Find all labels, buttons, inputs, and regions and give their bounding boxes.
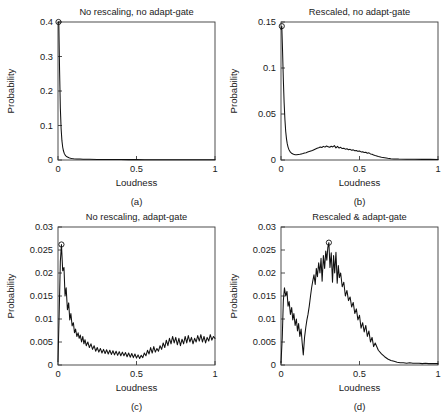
panel-caption: (c)	[131, 401, 142, 412]
x-tick-label: 0	[55, 164, 60, 174]
y-tick-label: 0.4	[40, 17, 53, 27]
x-axis-label: Loudness	[339, 177, 381, 188]
y-tick-label: 0.01	[258, 314, 276, 324]
y-tick-label: 0	[271, 360, 276, 370]
y-tick-label: 0.15	[258, 17, 276, 27]
y-tick-label: 0.3	[40, 52, 53, 62]
x-tick-label: 1	[212, 369, 217, 379]
y-axis-label: Probability	[228, 273, 239, 318]
y-tick-label: 0.015	[253, 291, 276, 301]
axes-frame	[58, 227, 215, 365]
panel-caption: (d)	[354, 401, 366, 412]
chart-title: No rescaling, no adapt-gate	[79, 7, 193, 17]
y-tick-label: 0	[271, 155, 276, 165]
axes-frame	[281, 22, 438, 160]
y-tick-label: 0	[48, 155, 53, 165]
x-tick-label: 0	[278, 164, 283, 174]
y-tick-label: 0.02	[35, 268, 53, 278]
x-axis-label: Loudness	[116, 177, 158, 188]
y-axis-label: Probability	[5, 68, 16, 113]
chart-title: Rescaled, no adapt-gate	[309, 7, 410, 17]
y-axis-label: Probability	[228, 68, 239, 113]
x-tick-label: 1	[435, 164, 440, 174]
x-axis-label: Loudness	[116, 382, 158, 393]
chart-panel-d: Rescaled & adapt-gate00.5100.0050.010.01…	[223, 205, 447, 413]
y-tick-label: 0.03	[258, 222, 276, 232]
x-tick-label: 0.5	[353, 164, 366, 174]
y-tick-label: 0.03	[35, 222, 53, 232]
y-axis-label: Probability	[5, 273, 16, 318]
x-tick-label: 1	[212, 164, 217, 174]
x-tick-label: 0.5	[353, 369, 366, 379]
x-tick-label: 1	[435, 369, 440, 379]
y-tick-label: 0.02	[258, 268, 276, 278]
y-tick-label: 0.025	[253, 245, 276, 255]
x-tick-label: 0.5	[130, 164, 143, 174]
data-curve	[281, 243, 438, 364]
y-tick-label: 0.2	[40, 86, 53, 96]
y-tick-label: 0.005	[253, 337, 276, 347]
data-curve	[58, 22, 215, 160]
y-tick-label: 0.1	[40, 121, 53, 131]
y-tick-label: 0.005	[30, 337, 53, 347]
y-tick-label: 0.015	[30, 291, 53, 301]
data-curve	[58, 244, 215, 361]
y-tick-label: 0	[48, 360, 53, 370]
chart-panel-b: Rescaled, no adapt-gate00.5100.050.10.15…	[223, 0, 447, 208]
x-tick-label: 0	[55, 369, 60, 379]
figure-canvas: No rescaling, no adapt-gate00.5100.10.20…	[0, 0, 447, 413]
x-tick-label: 0.5	[130, 369, 143, 379]
axes-frame	[58, 22, 215, 160]
chart-title: No rescaling, adapt-gate	[86, 212, 187, 222]
y-tick-label: 0.025	[30, 245, 53, 255]
chart-panel-a: No rescaling, no adapt-gate00.5100.10.20…	[0, 0, 224, 208]
x-tick-label: 0	[278, 369, 283, 379]
data-curve	[281, 26, 438, 159]
y-tick-label: 0.1	[263, 63, 276, 73]
chart-panel-c: No rescaling, adapt-gate00.5100.0050.010…	[0, 205, 224, 413]
y-tick-label: 0.01	[35, 314, 53, 324]
x-axis-label: Loudness	[339, 382, 381, 393]
y-tick-label: 0.05	[258, 109, 276, 119]
chart-title: Rescaled & adapt-gate	[312, 212, 407, 222]
